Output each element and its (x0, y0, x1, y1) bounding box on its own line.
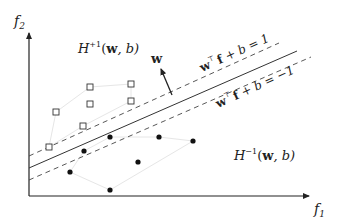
y-axis-label: f2 (13, 13, 25, 31)
svm-diagram: f2 f1 H+1(w, b) H−1(w, b) w w⊤f + b = 1 … (0, 0, 341, 224)
x-axis-label: f1 (313, 201, 325, 219)
positive-point (128, 98, 134, 104)
negative-region-label: H−1(w, b) (233, 147, 295, 163)
normal-vector-arrow (161, 69, 172, 95)
negative-point (81, 148, 86, 153)
positive-point (46, 144, 52, 150)
positive-region-label: H+1(w, b) (77, 40, 139, 56)
negative-point (156, 134, 161, 139)
negative-point (107, 187, 112, 192)
negative-class-hull (70, 137, 193, 190)
upper-margin-label: w⊤f + b = 1 (196, 30, 271, 75)
negative-point (67, 169, 72, 174)
negative-point (107, 134, 112, 139)
positive-point (87, 84, 93, 90)
positive-point (87, 101, 93, 107)
positive-point (80, 123, 86, 129)
positive-point (53, 109, 59, 115)
negative-point (135, 159, 140, 164)
negative-point (190, 138, 195, 143)
normal-vector-label: w (150, 51, 163, 66)
positive-point (128, 81, 134, 87)
positive-class-hull (49, 84, 131, 147)
